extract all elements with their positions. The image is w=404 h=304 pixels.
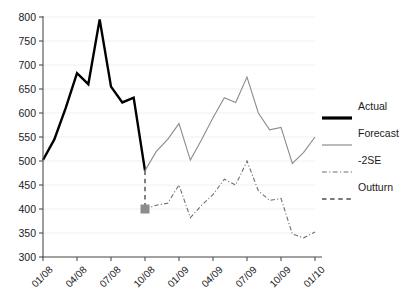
- y-axis-tick-label: 350: [2, 228, 36, 238]
- legend-label: Forecast: [358, 127, 399, 139]
- y-axis-tick-label: 600: [2, 108, 36, 118]
- y-axis-tick-label: 300: [2, 252, 36, 262]
- y-axis-tick-label: 400: [2, 204, 36, 214]
- legend-item-outturn: Outturn: [322, 179, 404, 206]
- y-axis-tick-label: 450: [2, 180, 36, 190]
- series-line-actual: [43, 19, 145, 170]
- y-axis-tick-label: 700: [2, 60, 36, 70]
- series-line--2se: [145, 161, 315, 238]
- y-axis-tick-label: 800: [2, 12, 36, 22]
- legend-swatch-icon: [322, 107, 352, 113]
- y-axis-tick-label: 750: [2, 36, 36, 46]
- legend-swatch-icon: [322, 161, 352, 167]
- y-axis-tick-label: 650: [2, 84, 36, 94]
- legend-label: Outturn: [358, 181, 393, 193]
- y-axis-tick-label: 550: [2, 132, 36, 142]
- series-line-forecast: [145, 77, 315, 171]
- legend-item--2se: -2SE: [322, 152, 404, 179]
- legend-label: -2SE: [358, 154, 381, 166]
- chart-legend: ActualForecast-2SEOutturn: [322, 98, 404, 206]
- legend-label: Actual: [358, 100, 387, 112]
- chart-figure: 300350400450500550600650700750800 01/080…: [0, 0, 404, 304]
- outturn-marker: [141, 205, 150, 214]
- legend-item-forecast: Forecast: [322, 125, 404, 152]
- y-axis-tick-label: 500: [2, 156, 36, 166]
- legend-item-actual: Actual: [322, 98, 404, 125]
- legend-swatch-icon: [322, 134, 352, 140]
- legend-swatch-icon: [322, 188, 352, 194]
